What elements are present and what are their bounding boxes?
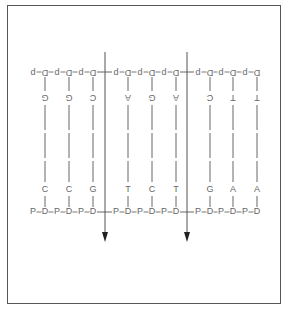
arrow-down-icon: [184, 232, 190, 242]
bottom-strand-phosphate: P: [242, 206, 248, 216]
top-strand-deoxyribose: D: [253, 68, 260, 78]
bottom-strand-deoxyribose: D: [90, 206, 97, 216]
bottom-strand-deoxyribose: D: [254, 206, 261, 216]
top-base-t: T: [230, 93, 236, 103]
top-strand-deoxyribose: D: [148, 68, 155, 78]
top-strand-phosphate: p: [242, 68, 247, 78]
top-strand-phosphate: p: [161, 68, 166, 78]
top-base-a: A: [173, 93, 179, 103]
top-base-g: G: [148, 93, 155, 103]
bottom-strand-phosphate: P: [195, 206, 201, 216]
bottom-strand-phosphate: P: [54, 206, 60, 216]
top-strand-deoxyribose: D: [89, 68, 96, 78]
top-strand-deoxyribose: D: [206, 68, 213, 78]
bottom-strand-phosphate: P: [113, 206, 119, 216]
bottom-strand-phosphate: P: [30, 206, 36, 216]
bottom-base-g: G: [89, 184, 96, 194]
bottom-strand-deoxyribose: D: [125, 206, 132, 216]
top-base-c: C: [89, 93, 96, 103]
top-base-g: G: [65, 93, 72, 103]
top-base-a: A: [125, 93, 131, 103]
top-strand-deoxyribose: D: [229, 68, 236, 78]
top-strand-deoxyribose: D: [65, 68, 72, 78]
bottom-base-t: T: [173, 184, 179, 194]
bottom-strand-deoxyribose: D: [230, 206, 237, 216]
bottom-base-c: C: [66, 184, 73, 194]
top-strand-phosphate: p: [78, 68, 83, 78]
bottom-strand-deoxyribose: D: [66, 206, 73, 216]
top-base-g: G: [41, 93, 48, 103]
bottom-base-a: A: [230, 184, 236, 194]
top-strand-phosphate: p: [218, 68, 223, 78]
bottom-base-g: G: [206, 184, 213, 194]
arrow-down-icon: [102, 232, 108, 242]
bottom-strand-deoxyribose: D: [173, 206, 180, 216]
bottom-strand-deoxyribose: D: [149, 206, 156, 216]
bottom-base-t: T: [125, 184, 131, 194]
top-strand-phosphate: p: [137, 68, 142, 78]
bottom-base-a: A: [254, 184, 260, 194]
bottom-strand-phosphate: P: [78, 206, 84, 216]
top-base-t: T: [254, 93, 260, 103]
bottom-base-c: C: [149, 184, 156, 194]
top-base-c: C: [206, 93, 213, 103]
top-strand-phosphate: p: [195, 68, 200, 78]
bottom-base-c: C: [42, 184, 49, 194]
bottom-strand-deoxyribose: D: [42, 206, 49, 216]
bottom-strand-phosphate: P: [137, 206, 143, 216]
bottom-strand-phosphate: P: [218, 206, 224, 216]
dna-diagram: pDpDpDpDpDpDpDpDpDPDPDPDPDPDPDPDPDPDGCGC…: [0, 0, 289, 312]
top-strand-phosphate: p: [54, 68, 59, 78]
top-strand-phosphate: p: [113, 68, 118, 78]
bottom-strand-phosphate: P: [161, 206, 167, 216]
bottom-strand-deoxyribose: D: [207, 206, 214, 216]
top-strand-deoxyribose: D: [124, 68, 131, 78]
top-strand-phosphate: p: [30, 68, 35, 78]
top-strand-deoxyribose: D: [41, 68, 48, 78]
top-strand-deoxyribose: D: [172, 68, 179, 78]
